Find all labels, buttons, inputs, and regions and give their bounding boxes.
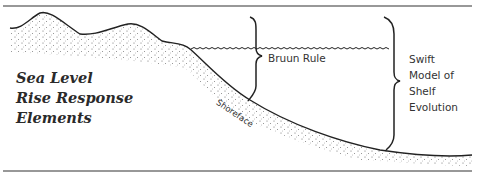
swift-model-brace <box>384 17 400 150</box>
title-line-3: Elements <box>16 108 156 128</box>
swift-line-4: Evolution <box>409 99 458 115</box>
title-line-2: Rise Response <box>16 88 156 108</box>
swift-line-2: Model of <box>409 67 458 83</box>
bruun-rule-label: Bruun Rule <box>268 50 326 66</box>
swift-model-label: Swift Model of Shelf Evolution <box>409 51 458 115</box>
swift-line-3: Shelf <box>409 83 458 99</box>
sea-level-wave-line <box>191 48 389 50</box>
diagram-title: Sea Level Rise Response Elements <box>16 68 156 128</box>
sea-level-rise-diagram: Sea Level Rise Response Elements Bruun R… <box>0 0 480 177</box>
bruun-rule-brace <box>248 17 262 101</box>
title-line-1: Sea Level <box>16 68 156 88</box>
swift-line-1: Swift <box>409 51 458 67</box>
